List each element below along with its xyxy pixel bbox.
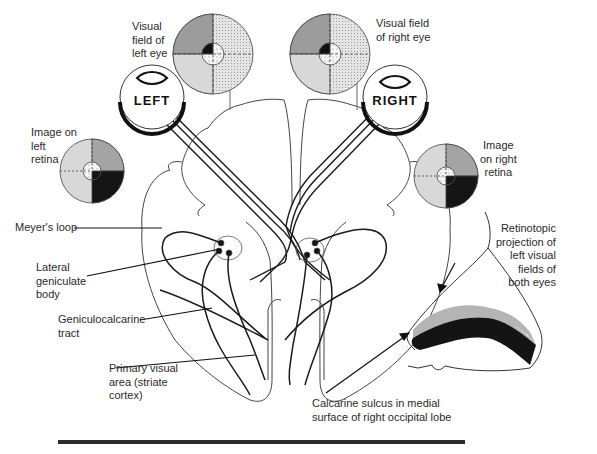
label-calcarine: Calcarine sulcus in medial surface of ri… — [312, 397, 451, 424]
label-visual-field-right: Visual field of right eye — [376, 17, 430, 44]
calcarine-projection — [412, 305, 536, 365]
visual-field-left-disc — [173, 14, 253, 94]
bottom-rule — [58, 440, 465, 444]
label-image-right-retina: Image on right retina — [480, 139, 517, 180]
label-image-left-retina: Image on left retina — [31, 126, 77, 167]
label-lateral-geniculate: Lateral geniculate body — [36, 261, 86, 302]
label-primary-visual: Primary visual area (striate cortex) — [109, 362, 178, 403]
label-geniculocalcarine: Geniculocalcarine tract — [58, 313, 145, 340]
label-meyers-loop: Meyer's loop — [15, 221, 77, 235]
right-eye-label: RIGHT — [366, 93, 424, 108]
visual-field-right-disc — [290, 14, 370, 94]
label-visual-field-left: Visual field of left eye — [132, 20, 167, 61]
right-retina-disc — [414, 144, 478, 208]
left-eye-label: LEFT — [123, 93, 181, 108]
label-retinotopic: Retinotopic projection of left visual fi… — [496, 222, 556, 290]
